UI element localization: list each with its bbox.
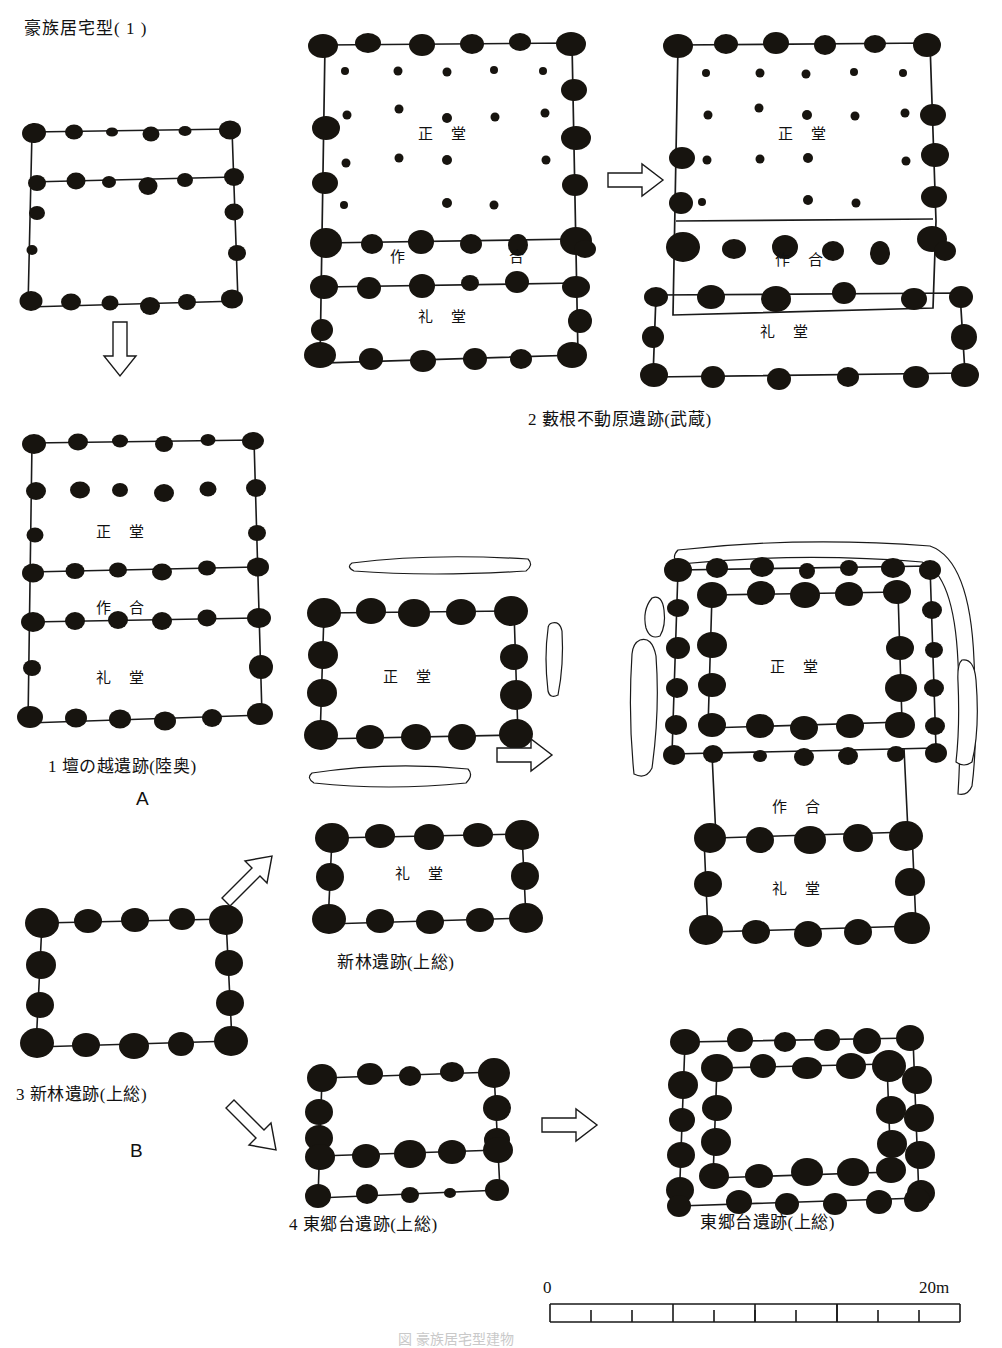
right-arrow [495, 735, 555, 775]
room-label-connector: 作 合 [96, 596, 151, 617]
room-label-worship-hall: 礼 堂 [395, 862, 450, 883]
figure-title: 豪族居宅型( 1 ) [24, 14, 147, 39]
room-label-main-hall: 正 堂 [96, 520, 151, 541]
caption-site4-result: 東郷台遺跡(上総) [700, 1208, 835, 1233]
scale-end-label: 20m [919, 1278, 949, 1298]
room-label-worship-hall: 礼 堂 [772, 877, 827, 898]
room-label-connector: 作 合 [390, 245, 574, 266]
group-label-b: B [130, 1140, 143, 1162]
figure-bottom-caption: 図 豪族居宅型建物 [398, 1328, 514, 1348]
caption-site3-result: 新林遺跡(上総) [337, 948, 454, 973]
room-label-main-hall: 正 堂 [770, 655, 825, 676]
room-label-connector: 作 合 [772, 795, 827, 816]
right-arrow [540, 1105, 600, 1145]
scale-start-label: 0 [543, 1278, 552, 1298]
scale-bar [545, 1300, 965, 1326]
plan-togodai-result [655, 1020, 955, 1230]
plan-shinbayashi-site3 [20, 905, 250, 1065]
plan-shinbayashi-composite [600, 540, 1000, 970]
plan-danno-koshi-early [10, 115, 280, 365]
plan-togodai-site4 [300, 1060, 540, 1220]
room-label-main-hall: 正 堂 [778, 122, 833, 143]
room-label-worship-hall: 礼 堂 [418, 305, 473, 326]
room-label-main-hall: 正 堂 [418, 122, 473, 143]
caption-site3: 3 新林遺跡(上総) [16, 1080, 147, 1105]
down-right-arrow [222, 1090, 286, 1154]
room-label-worship-hall: 礼 堂 [96, 666, 151, 687]
room-label-worship-hall: 礼 堂 [760, 320, 815, 341]
room-label-connector: 作 合 [775, 248, 830, 269]
down-arrow [100, 320, 140, 380]
caption-site1: 1 壇の越遺跡(陸奥) [48, 752, 197, 777]
caption-site2: 2 藪根不動原遺跡(武蔵) [528, 405, 712, 430]
room-label-main-hall: 正 堂 [383, 665, 438, 686]
plan-yabune-fudohara-before [295, 25, 595, 385]
plan-danno-koshi-site1 [8, 425, 283, 745]
group-label-a: A [136, 788, 149, 810]
caption-site4: 4 東郷台遺跡(上総) [289, 1210, 438, 1235]
